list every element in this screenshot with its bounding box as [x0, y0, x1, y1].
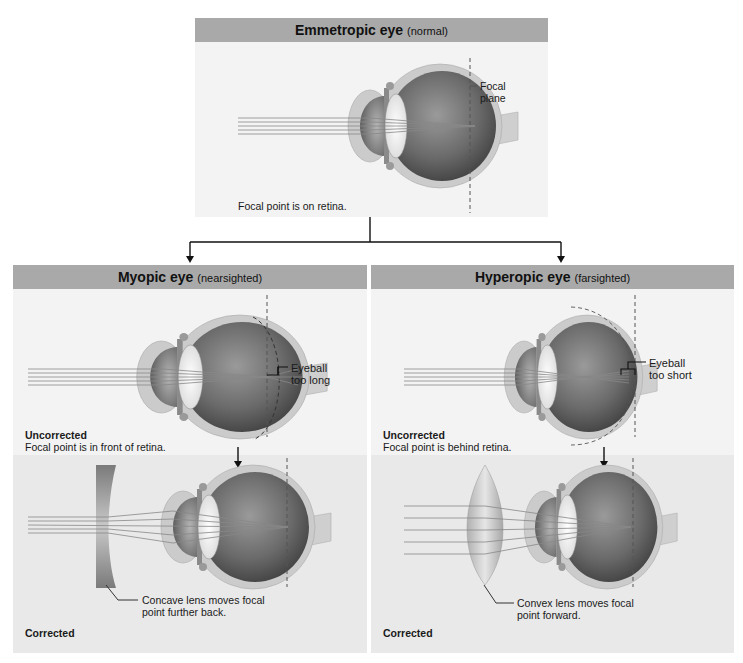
- myopic-uncorrected-label: Uncorrected Focal point is in front of r…: [25, 429, 166, 453]
- myopic-panel: Myopic eye (nearsighted): [13, 265, 367, 653]
- myopic-eyeball-annotation: Eyeball too long: [291, 362, 330, 386]
- myopic-lens-caption: Concave lens moves focal point further b…: [142, 594, 265, 618]
- hyperopic-eyeball-annotation: Eyeball too short: [649, 357, 692, 381]
- hyperopic-lens-caption: Convex lens moves focal point forward.: [517, 597, 634, 621]
- convex-lens: [467, 465, 503, 585]
- hyperopic-uncorrected-label: Uncorrected Focal point is behind retina…: [383, 429, 511, 453]
- hyperopic-illustration: [371, 265, 734, 653]
- myopic-corrected-label: Corrected: [25, 627, 75, 639]
- hyperopic-panel: Hyperopic eye (farsighted): [371, 265, 734, 653]
- hyperopic-corrected-label: Corrected: [383, 627, 433, 639]
- concave-lens: [96, 465, 116, 588]
